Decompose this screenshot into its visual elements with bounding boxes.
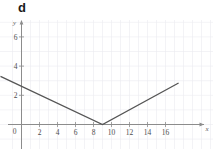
x-tick-label-4: 4 xyxy=(56,128,60,137)
x-tick-label-10: 10 xyxy=(108,128,116,137)
grid-lines xyxy=(0,20,213,149)
y-tick-label-6: 6 xyxy=(14,33,18,42)
x-tick-label-6: 6 xyxy=(74,128,78,137)
y-axis xyxy=(20,20,24,149)
x-axis-label: x xyxy=(204,125,209,133)
x-tick-label-12: 12 xyxy=(126,128,134,137)
data-series-line xyxy=(1,76,179,124)
y-tick-labels: 2 4 6 xyxy=(14,33,18,100)
x-tick-label-2: 2 xyxy=(38,128,42,137)
chart-figure: d xyxy=(0,0,213,153)
chart-canvas: 0 2 4 6 8 10 12 14 16 2 4 6 y x xyxy=(0,0,213,153)
x-tick-label-0: 0 xyxy=(13,127,17,136)
x-tick-label-8: 8 xyxy=(92,128,96,137)
x-tick-labels: 0 2 4 6 8 10 12 14 16 xyxy=(13,127,170,137)
x-tick-label-14: 14 xyxy=(144,128,152,137)
y-tick-label-2: 2 xyxy=(14,91,18,100)
y-tick-label-4: 4 xyxy=(14,62,18,71)
x-tick-label-16: 16 xyxy=(162,128,170,137)
